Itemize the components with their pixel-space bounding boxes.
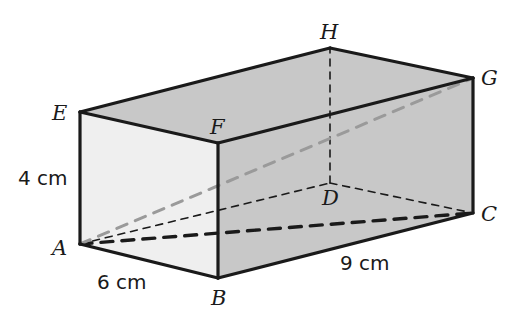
vertex-label-D: D bbox=[322, 188, 339, 209]
length-label: 9 cm bbox=[340, 253, 390, 273]
vertex-label-C: C bbox=[481, 204, 497, 225]
height-label: 4 cm bbox=[18, 168, 68, 188]
vertex-label-F: F bbox=[210, 117, 225, 138]
vertex-label-B: B bbox=[211, 288, 226, 309]
geometry-figure: A B C D E F G H 4 cm 6 cm 9 cm bbox=[0, 0, 512, 323]
vertex-label-E: E bbox=[52, 103, 67, 124]
prism-drawing bbox=[0, 0, 512, 323]
faces bbox=[80, 48, 473, 278]
vertex-label-A: A bbox=[52, 238, 67, 259]
vertex-label-G: G bbox=[481, 68, 498, 89]
width-label: 6 cm bbox=[97, 272, 147, 292]
vertex-label-H: H bbox=[320, 22, 338, 43]
